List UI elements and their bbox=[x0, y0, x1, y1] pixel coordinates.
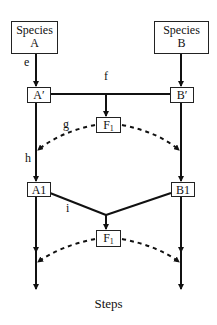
steps-caption: Steps bbox=[0, 298, 217, 310]
f1-top-sub: 1 bbox=[110, 124, 114, 133]
f1-bottom-sub: 1 bbox=[110, 237, 114, 246]
b1-box: B1 bbox=[171, 182, 195, 197]
f1-top-box: F1 bbox=[96, 117, 121, 133]
species-b-box: Species B bbox=[154, 21, 209, 54]
species-b-line2: B bbox=[155, 37, 208, 50]
label-e: e bbox=[24, 56, 29, 68]
b-prime-box: B′ bbox=[170, 87, 194, 103]
label-g: g bbox=[63, 118, 69, 130]
f1-bottom-main: F bbox=[103, 231, 110, 245]
label-h: h bbox=[25, 152, 31, 164]
label-f: f bbox=[104, 70, 108, 82]
species-a-line2: A bbox=[12, 37, 57, 50]
species-a-box: Species A bbox=[11, 21, 58, 54]
f1-top-main: F bbox=[103, 118, 110, 132]
f1-bottom-box: F1 bbox=[96, 230, 121, 247]
a-prime-box: A′ bbox=[27, 87, 51, 103]
a1-box: A1 bbox=[27, 182, 51, 197]
label-i: i bbox=[66, 202, 69, 214]
